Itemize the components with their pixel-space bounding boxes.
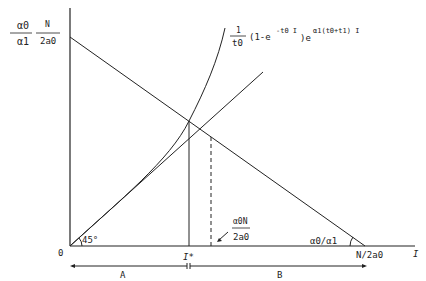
diagram-canvas: α0 α1 N 2a0 1 t0 (1-e -t0 I )e α1(t0+t1)…	[0, 0, 426, 281]
y-label-2a0: 2a0	[40, 36, 56, 46]
y-label-alpha1: α1	[17, 36, 29, 47]
x-intercept-label: N/2a0	[356, 250, 383, 260]
curve-frac-den: t0	[232, 38, 243, 48]
curve-exp1: -t0 I	[276, 27, 297, 35]
curve-exp2: α1(t0+t1) I	[313, 27, 359, 35]
exponential-curve	[70, 28, 225, 246]
curve-body: (1-e	[249, 32, 271, 42]
slope-label: α0/α1	[310, 236, 337, 246]
angle-45-label: 45°	[82, 235, 98, 245]
x-axis-label: I	[413, 249, 419, 259]
mid-label-den: 2a0	[233, 232, 249, 242]
segment-a-arrow-left	[70, 264, 75, 268]
pointer-arrow	[219, 232, 228, 240]
segment-b-label: B	[277, 270, 282, 280]
mid-label-num: α0N	[233, 217, 248, 226]
decreasing-line	[70, 37, 365, 246]
y-label-alpha0: α0	[17, 20, 29, 31]
y-label-N: N	[45, 20, 50, 29]
origin-label: 0	[58, 248, 63, 258]
istar-label: I*	[183, 252, 194, 262]
segment-b-arrow-right	[362, 264, 367, 268]
curve-frac-num: 1	[236, 26, 241, 35]
segment-a-label: A	[120, 270, 126, 280]
angle-arc-slope	[350, 237, 353, 246]
curve-mid: )e	[300, 33, 311, 43]
